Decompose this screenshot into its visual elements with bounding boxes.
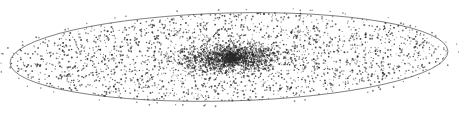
galaxy-svg	[0, 0, 461, 114]
galaxy-illustration: Stippled illustration of a disk galaxy s…	[0, 0, 461, 114]
